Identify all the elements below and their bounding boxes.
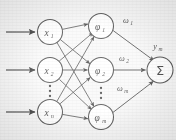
output-ym-subscript: m bbox=[159, 46, 163, 52]
node-xn-circle bbox=[38, 100, 63, 125]
hidden-layer-ellipsis-icon bbox=[100, 87, 102, 99]
node-phi1-subscript: 1 bbox=[102, 27, 105, 33]
node-x2: x 2 bbox=[38, 58, 63, 83]
node-phim-subscript: m bbox=[102, 118, 106, 124]
node-x2-label: x bbox=[43, 66, 49, 76]
node-phim: φ m bbox=[89, 105, 114, 130]
weight-wm-symbol: ω bbox=[117, 84, 123, 93]
edge-xn-phi2 bbox=[60, 77, 91, 104]
weight-wm-subscript: m bbox=[124, 88, 128, 94]
node-phi1-label: φ bbox=[95, 22, 100, 32]
neural-network-diagram: x 1 x 2 x n φ 1 bbox=[0, 0, 176, 140]
weight-label-wm: ω m bbox=[117, 84, 128, 94]
input-layer: x 1 x 2 x n bbox=[38, 20, 63, 125]
node-phi2-label: φ bbox=[95, 66, 100, 76]
node-phi2-circle bbox=[89, 58, 114, 83]
node-phim-circle bbox=[89, 105, 114, 130]
node-x2-circle bbox=[38, 58, 63, 83]
neural-network-canvas: x 1 x 2 x n φ 1 bbox=[0, 0, 176, 140]
node-xn-subscript: n bbox=[51, 113, 54, 119]
node-x2-subscript: 2 bbox=[51, 71, 54, 77]
node-phi1-circle bbox=[89, 14, 114, 39]
input-layer-ellipsis-icon bbox=[49, 85, 51, 97]
node-x1-subscript: 1 bbox=[51, 33, 54, 39]
node-x1: x 1 bbox=[38, 20, 63, 45]
output-ym-symbol: y bbox=[152, 42, 157, 51]
weight-labels-group: ω 1 ω 2 ω m bbox=[117, 16, 133, 94]
node-phi2: φ 2 bbox=[89, 58, 114, 83]
edge-x1-phi1 bbox=[62, 24, 88, 29]
node-phi1: φ 1 bbox=[89, 14, 114, 39]
node-xn: x n bbox=[38, 100, 63, 125]
weight-w2-subscript: 2 bbox=[126, 58, 129, 64]
weight-label-w1: ω 1 bbox=[123, 16, 133, 26]
hidden-layer: φ 1 φ 2 φ m bbox=[89, 14, 114, 130]
weight-w2-symbol: ω bbox=[119, 54, 125, 63]
weight-w1-symbol: ω bbox=[123, 16, 129, 25]
edge-xn-phim bbox=[62, 114, 88, 118]
node-xn-label: x bbox=[43, 108, 49, 118]
node-x1-circle bbox=[38, 20, 63, 45]
node-phi2-subscript: 2 bbox=[102, 71, 105, 77]
node-sum-label: Σ bbox=[156, 63, 164, 78]
weight-label-w2: ω 2 bbox=[119, 54, 129, 64]
node-x1-label: x bbox=[43, 28, 49, 38]
output-label-ym: y m bbox=[152, 42, 162, 52]
node-phim-label: φ bbox=[95, 113, 100, 123]
weight-w1-subscript: 1 bbox=[130, 20, 133, 26]
output-layer: Σ bbox=[147, 57, 173, 83]
input-arrows-group bbox=[6, 32, 35, 112]
